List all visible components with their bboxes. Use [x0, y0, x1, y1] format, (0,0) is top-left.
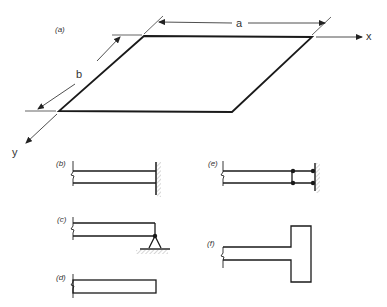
break-symbol: [221, 247, 224, 268]
link-joint-top-left: [291, 169, 295, 173]
dimension-b-label: b: [76, 68, 82, 80]
a-extension-right: [312, 17, 331, 35]
panel-d: (d): [56, 273, 156, 298]
wall-hatching: [316, 163, 320, 193]
panel-c: (c): [57, 215, 170, 254]
panel-d-label: (d): [56, 273, 66, 282]
plate-outline: [59, 36, 312, 112]
a-extension-left: [144, 16, 163, 34]
panel-a: (a) x y b a: [12, 16, 372, 158]
y-axis-label: y: [12, 146, 18, 158]
dimension-a-label: a: [236, 17, 243, 29]
panel-b: (b): [56, 159, 161, 197]
panel-f: (f): [207, 226, 311, 282]
dimension-a-line-left: [159, 22, 232, 23]
ground-hatching: [136, 250, 168, 254]
free-slab-edge: [73, 280, 156, 293]
x-axis-label: x: [366, 30, 372, 42]
panel-b-label: (b): [56, 159, 66, 168]
panel-f-label: (f): [207, 239, 215, 248]
y-axis-line: [26, 114, 57, 143]
break-symbol: [221, 161, 224, 186]
break-symbol: [71, 161, 74, 186]
panel-e-label: (e): [208, 159, 218, 168]
dimension-b-line-upper: [97, 37, 120, 61]
panel-c-label: (c): [57, 215, 67, 224]
panel-e: (e): [208, 159, 320, 193]
dimension-b-line-lower: [38, 84, 75, 109]
wall-hatching: [157, 162, 161, 197]
panel-a-label: (a): [55, 25, 65, 34]
t-beam-outline: [223, 226, 311, 282]
plate-edge-conditions-diagram: (a) x y b a (b) (c): [0, 0, 387, 307]
link-joint-bottom-left: [291, 181, 295, 185]
